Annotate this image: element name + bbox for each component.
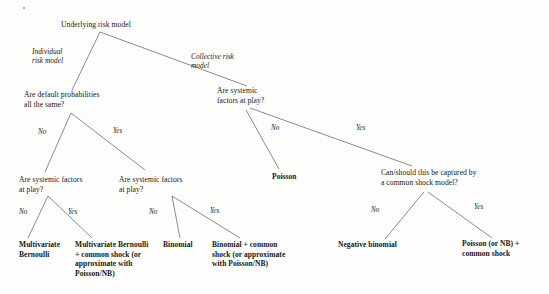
edge-label-q4-no: No — [271, 124, 279, 133]
edge-q5-no — [385, 192, 424, 239]
node-root: Underlying risk model — [61, 20, 131, 30]
edge-q2-no — [28, 196, 48, 238]
node-question-systemic-middle: Are systemic factors at play? — [119, 175, 182, 194]
decision-tree-diagram: Underlying risk model Individual risk mo… — [0, 0, 549, 294]
edge-q1-no — [45, 113, 71, 172]
edge-q2-yes — [48, 196, 92, 238]
leaf-multivariate-bernoulli-common-shock: Multivariate Bernoulli + common shock (o… — [75, 240, 148, 278]
leaf-poisson: Poisson — [272, 172, 297, 182]
edge-label-q3-no: No — [149, 208, 157, 217]
edge-label-q3-yes: Yes — [210, 207, 219, 216]
edge-label-q1-yes: Yes — [113, 127, 122, 136]
edge-label-q5-no: No — [371, 206, 379, 215]
branch-label-individual-risk-model: Individual risk model — [32, 47, 63, 66]
edge-label-q4-yes: Yes — [356, 124, 365, 133]
edge-q3-no — [172, 196, 180, 238]
edge-q5-yes — [428, 192, 492, 238]
leaf-binomial: Binomial — [163, 240, 193, 250]
leaf-negative-binomial: Negative binomial — [338, 240, 397, 250]
leaf-binomial-common-shock: Binomial + common shock (or approximate … — [212, 240, 285, 269]
node-question-systemic-collective: Are systemic factors at play? — [217, 86, 264, 105]
edge-label-q5-yes: Yes — [474, 203, 483, 212]
node-question-common-shock: Can/should this be captured by a common … — [381, 168, 477, 187]
edge-label-q2-yes: Yes — [68, 208, 77, 217]
leaf-poisson-common-shock: Poisson (or NB) + common shock — [462, 239, 519, 258]
edge-label-q2-no: No — [19, 208, 27, 217]
edge-q4-no — [246, 110, 279, 169]
edge-q4-yes — [250, 108, 412, 166]
node-question-systemic-left: Are systemic factors at play? — [19, 175, 82, 194]
edge-root-individual — [72, 32, 100, 90]
leaf-multivariate-bernoulli: Multivariate Bernoulli — [19, 240, 60, 259]
branch-label-collective-risk-model: Collective risk model — [191, 52, 234, 71]
edge-q1-yes — [71, 113, 145, 170]
edge-label-q1-no: No — [38, 128, 46, 137]
edge-q3-yes — [172, 196, 240, 238]
node-question-default-probabilities: Are default probabilities all the same? — [24, 90, 99, 109]
scan-speck — [23, 7, 25, 9]
